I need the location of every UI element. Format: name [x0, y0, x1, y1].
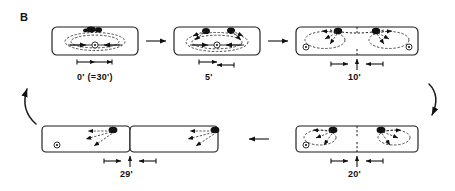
time-label-panel-5: 5': [205, 73, 213, 82]
flow-curve-right: [429, 84, 436, 115]
chromosome-mass-right: [211, 127, 220, 134]
panel-20-graphic: [296, 126, 418, 167]
panel-0-measurement: [77, 59, 112, 64]
flow-curve-left: [25, 89, 36, 124]
time-label-panel-0: 0' (=30'): [77, 73, 113, 82]
panel-10-measurement: [331, 59, 383, 70]
time-label-panel-10: 10': [348, 73, 361, 82]
panel-29-measurement: [104, 156, 156, 167]
centriole-center-mark: [214, 42, 220, 48]
centriole-left: [303, 44, 309, 50]
centriole-right: [406, 44, 412, 50]
centriole-left: [54, 142, 60, 148]
panel-20-measurement: [331, 156, 383, 167]
centriole-center-mark: [92, 42, 98, 48]
panel-5-graphic: [174, 27, 260, 68]
figure-canvas: B: [0, 0, 455, 191]
cell-division-diagram: [0, 0, 455, 191]
panel-10-graphic: [296, 27, 418, 70]
panel-0-graphic: [52, 27, 138, 65]
panel-5-measurement: [199, 59, 234, 67]
panel-29-graphic: [42, 126, 219, 167]
time-label-panel-29: 29': [120, 170, 133, 179]
time-label-panel-20: 20': [348, 170, 361, 179]
